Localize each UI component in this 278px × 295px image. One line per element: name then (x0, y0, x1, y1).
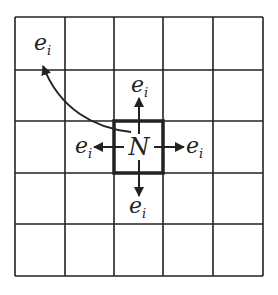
label-far: e i (34, 30, 51, 58)
svg-text:i: i (144, 85, 148, 100)
node-label: N (128, 133, 151, 161)
svg-text:e: e (75, 133, 88, 158)
svg-text:e: e (131, 72, 144, 97)
label-right: e i (186, 133, 203, 161)
svg-text:i: i (142, 206, 146, 221)
svg-text:e: e (129, 193, 142, 218)
label-top: e i (131, 72, 148, 100)
svg-text:e: e (186, 133, 199, 158)
svg-text:i: i (88, 146, 92, 161)
svg-text:e: e (34, 30, 47, 55)
svg-text:i: i (47, 43, 51, 58)
label-left: e i (75, 133, 92, 161)
grid-diagram: N e i e i e i e i e i (0, 0, 278, 295)
label-bottom: e i (129, 193, 146, 221)
svg-text:i: i (199, 146, 203, 161)
